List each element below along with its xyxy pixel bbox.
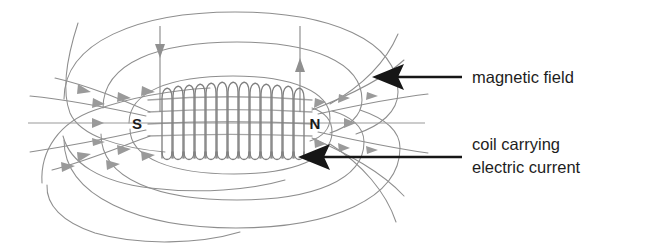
coil-turn-bottom [272,152,282,160]
coil-turn [250,83,260,158]
pole-label-north: N [310,115,321,132]
callout-coil-current-label-line2: electric current [472,158,581,176]
field-arrowhead-right-4 [338,143,350,152]
pole-label-south: S [132,115,142,132]
solenoid-field-diagram: S N magnetic field coil carrying electri… [0,0,655,246]
coil-turn [239,82,249,158]
field-loop-bottom-1 [64,110,400,228]
flux-arrow-right-head [295,58,305,72]
coil-turn [217,82,227,158]
diagram-canvas: S N magnetic field coil carrying electri… [0,0,655,246]
callout-coil-current: coil carrying electric current [298,135,581,176]
coil-turn-bottom [261,152,271,160]
coil-turn-bottom [173,152,183,160]
coil-turn-bottom [195,152,205,160]
coil-turn [206,83,216,158]
coil-turn-bottom [206,152,216,160]
coil-turn-bottom [228,152,238,160]
coil-turn [261,84,271,158]
field-arrowhead-right-2 [366,146,378,154]
coil-turn [228,82,238,158]
coil-turn-bottom [250,152,260,160]
field-arrowhead-right-1 [366,92,378,100]
field-loop-top-1 [64,12,398,134]
solenoid-coil [148,82,312,159]
callout-coil-current-label-line1: coil carrying [472,135,560,153]
field-line-outer-left-2 [47,185,240,242]
callout-magnetic-field: magnetic field [372,64,574,90]
coil-turns [162,82,304,158]
coil-turn-bottom [217,152,227,160]
coil-turn-bottom [239,152,249,160]
field-line-right-exit-upper3 [330,34,398,104]
coil-turn-bottom [283,152,293,160]
field-arrowhead-left-10 [106,160,120,170]
coil-turn-bottom [184,152,194,160]
coil-turn-bottom [162,152,172,160]
field-loop-bottom-3 [130,108,332,174]
coil-turn [195,84,205,158]
flux-arrow-left-head [155,44,165,58]
field-arrowhead-left-3 [77,84,91,94]
axis-arrowhead-left [92,118,104,128]
callout-magnetic-field-label: magnetic field [472,68,574,86]
